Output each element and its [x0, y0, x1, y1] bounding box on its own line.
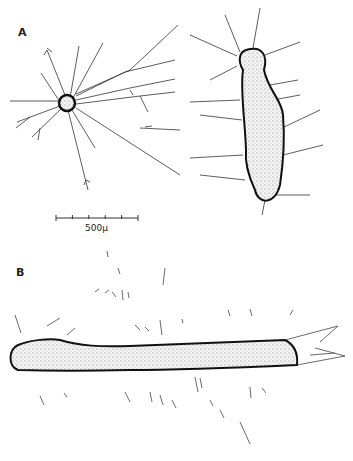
small-cell [10, 25, 180, 190]
elongated-cell-body [240, 49, 284, 201]
scale-bar [56, 215, 138, 221]
illustration [0, 0, 353, 461]
small-cell-body [59, 95, 75, 111]
tubular-body [11, 339, 298, 371]
